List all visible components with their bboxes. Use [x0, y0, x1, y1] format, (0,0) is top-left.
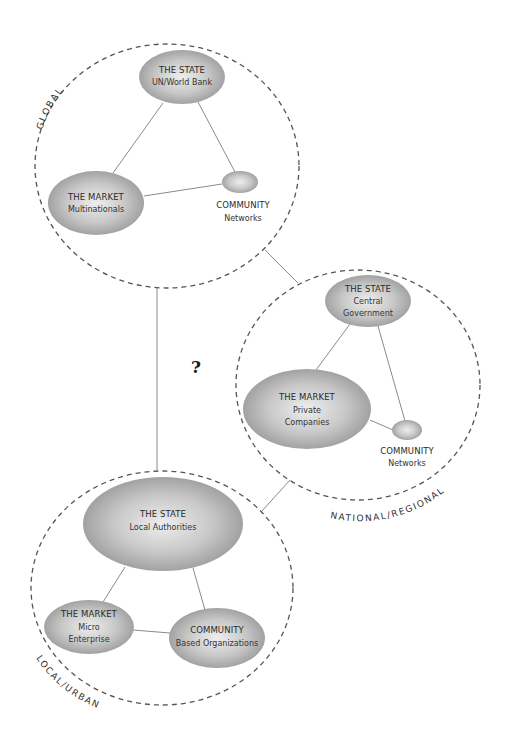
local-community-node: COMMUNITY Based Organizations [169, 608, 265, 668]
node-subtitle: Based Organizations [176, 639, 258, 648]
scope-global: GLOBAL THE STATE UN/World Bank THE MARKE… [34, 44, 299, 288]
node-title: COMMUNITY [380, 446, 434, 456]
node-subtitle: Networks [224, 214, 262, 223]
node-subtitle: Central [353, 297, 382, 306]
node-title: COMMUNITY [216, 200, 270, 210]
node-subtitle: Networks [388, 459, 426, 468]
global-market-node: THE MARKET Multinationals [48, 171, 144, 235]
node-subtitle: Local Authorities [130, 523, 197, 532]
node-title: COMMUNITY [190, 625, 244, 635]
scope-local: LOCAL/URBAN THE STATE Local Authorities … [31, 471, 293, 710]
node-subtitle: Private [293, 406, 321, 415]
question-mark: ? [191, 357, 201, 377]
node-subtitle: UN/World Bank [152, 78, 212, 87]
node-subtitle: Micro [78, 623, 100, 632]
node-subtitle: Companies [285, 418, 330, 427]
node-subtitle: Government [343, 309, 393, 318]
node-title: THE MARKET [278, 392, 336, 402]
national-community-node: COMMUNITY Networks [380, 420, 434, 468]
national-state-node: THE STATE Central Government [325, 275, 411, 327]
global-community-node: COMMUNITY Networks [216, 171, 270, 223]
local-state-node: THE STATE Local Authorities [83, 477, 243, 571]
node-title: THE MARKET [67, 192, 125, 202]
node-title: THE MARKET [60, 609, 118, 619]
global-state-node: THE STATE UN/World Bank [139, 50, 225, 104]
node-subtitle: Multinationals [68, 205, 124, 214]
node-subtitle: Enterprise [68, 635, 109, 644]
national-market-node: THE MARKET Private Companies [243, 369, 371, 449]
scope-national: NATIONAL/REGIONAL THE STATE Central Gove… [236, 270, 480, 523]
node-title: THE STATE [158, 65, 205, 75]
national-label: NATIONAL/REGIONAL [330, 485, 447, 523]
node-title: THE STATE [344, 284, 391, 294]
local-national-connector [262, 480, 290, 511]
local-label: LOCAL/URBAN [34, 653, 102, 710]
governance-diagram: GLOBAL THE STATE UN/World Bank THE MARKE… [0, 0, 507, 753]
local-market-node: THE MARKET Micro Enterprise [44, 600, 134, 654]
global-national-connector [265, 250, 298, 283]
global-label: GLOBAL [34, 85, 65, 131]
node-title: THE STATE [139, 509, 186, 519]
